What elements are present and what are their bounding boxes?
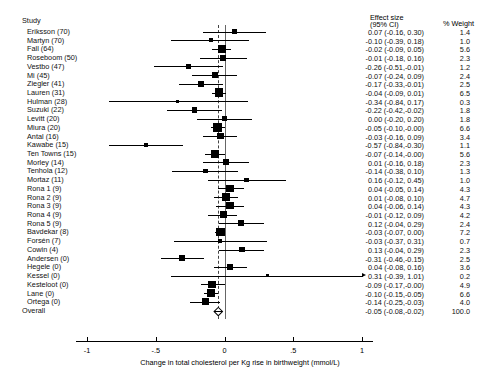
study-label: Fall (64) (27, 45, 54, 52)
study-label: Roseboom (50) (27, 54, 77, 61)
x-axis-tick (87, 337, 88, 341)
study-label: Rona 2 (9) (27, 194, 61, 201)
effect-size-value: -0.14 (-0.38, 0.10) (338, 167, 424, 176)
x-axis-tick-label: -1 (67, 346, 107, 355)
x-axis-tick-label: 1 (342, 346, 382, 355)
weight-value: 1.8 (440, 106, 470, 115)
study-label: Bavdekar (8) (27, 228, 69, 235)
effect-size-value: 0.04 (-0.06, 0.14) (338, 202, 424, 211)
study-label: Rona 4 (9) (27, 211, 61, 218)
weight-value: 2.5 (440, 80, 470, 89)
weight-value: 4.2 (440, 211, 470, 220)
point-estimate-marker (227, 264, 234, 271)
point-estimate-marker (213, 123, 221, 131)
effect-size-value: 0.04 (-0.05, 0.14) (338, 185, 424, 194)
effect-size-value: -0.17 (-0.33,-0.01) (338, 80, 424, 89)
study-label: Mi (45) (27, 72, 50, 79)
point-estimate-marker (203, 169, 208, 174)
effect-size-value: -0.04 (-0.09, 0.01) (338, 89, 424, 98)
point-estimate-marker (226, 185, 233, 192)
study-label: Suzuki (22) (27, 106, 64, 113)
weight-value: 2.4 (440, 220, 470, 229)
point-estimate-marker (238, 220, 244, 226)
effect-size-value: 0.31 (-0.39, 1.01) (338, 272, 424, 281)
study-label: Rona 5 (9) (27, 220, 61, 227)
weight-value: 2.3 (440, 246, 470, 255)
study-label: Ten Towns (15) (27, 150, 76, 157)
x-axis-tick (225, 337, 226, 341)
point-estimate-marker (217, 133, 224, 140)
weight-value: 2.3 (440, 159, 470, 168)
study-label: Kawabe (15) (27, 141, 68, 148)
study-label: Martyn (70) (27, 37, 64, 44)
overall-label: Overall (22, 307, 45, 314)
x-axis-title: Change in total cholesterol per Kg rise … (0, 358, 480, 367)
point-estimate-marker (266, 274, 269, 277)
weight-value: 6.5 (440, 89, 470, 98)
x-axis-tick (156, 337, 157, 341)
effect-size-value: -0.03 (-0.07, 0.00) (338, 228, 424, 237)
overall-diamond-marker (214, 307, 223, 316)
study-label: Miura (20) (27, 124, 60, 131)
point-estimate-marker (212, 72, 218, 78)
study-label: Morley (14) (27, 159, 64, 166)
study-label: Rona 1 (9) (27, 185, 61, 192)
x-axis-tick-label: -.5 (136, 346, 176, 355)
point-estimate-marker (176, 100, 179, 103)
effect-size-value: 0.16 (-0.12, 0.45) (338, 176, 424, 185)
effect-size-value: 0.01 (-0.08, 0.10) (338, 194, 424, 203)
overall-ci-line (214, 311, 222, 312)
effect-size-value: -0.05 (-0.10,-0.00) (338, 124, 424, 133)
study-label: Forsén (7) (27, 237, 61, 244)
x-axis-tick (293, 337, 294, 341)
effect-size-value: 0.13 (-0.04, 0.29) (338, 246, 424, 255)
weight-value: 4.3 (440, 185, 470, 194)
x-axis-tick-label: .5 (273, 346, 313, 355)
study-label: Kesteloot (0) (27, 281, 68, 288)
point-estimate-marker (207, 289, 215, 297)
overall-weight: 100.0 (440, 307, 470, 316)
study-label: Vestbo (47) (27, 63, 64, 70)
weight-value: 1.2 (440, 63, 470, 72)
study-label: Hulman (28) (27, 98, 67, 105)
overall-effect-size: -0.05 (-0.08,-0.02) (338, 307, 424, 316)
weight-value: 5.6 (440, 45, 470, 54)
x-axis-line (76, 341, 373, 342)
study-label: Andersen (0) (27, 255, 69, 262)
study-label: Ortega (0) (27, 298, 60, 305)
weight-value: 4.7 (440, 194, 470, 203)
study-label: Antal (16) (27, 133, 59, 140)
effect-size-value: -0.10 (-0.15,-0.05) (338, 290, 424, 299)
point-estimate-marker (192, 107, 197, 112)
weight-value: 1.4 (440, 28, 470, 37)
weight-value: 6.6 (440, 290, 470, 299)
effect-size-value: 0.01 (-0.16, 0.18) (338, 159, 424, 168)
point-estimate-marker (222, 116, 227, 121)
point-estimate-marker (209, 38, 213, 42)
effect-size-value: -0.01 (-0.18, 0.16) (338, 54, 424, 63)
weight-value: 4.3 (440, 202, 470, 211)
point-estimate-marker (220, 55, 226, 61)
effect-size-value: -0.07 (-0.14,-0.00) (338, 150, 424, 159)
weight-value: 0.2 (440, 272, 470, 281)
study-label: Lauren (31) (27, 89, 65, 96)
study-label: Cowin (4) (27, 246, 58, 253)
study-label: Eriksson (70) (27, 28, 70, 35)
weight-value: 3.6 (440, 263, 470, 272)
weight-value: 2.4 (440, 72, 470, 81)
weight-value: 4.9 (440, 281, 470, 290)
point-estimate-marker (216, 228, 225, 237)
point-estimate-marker (239, 247, 245, 253)
effect-size-value: 0.07 (-0.16, 0.30) (338, 28, 424, 37)
weight-value: 2.3 (440, 54, 470, 63)
weight-value: 4.0 (440, 298, 470, 307)
effect-size-value: -0.26 (-0.51,-0.01) (338, 63, 424, 72)
point-estimate-marker (215, 88, 223, 96)
point-estimate-marker (186, 64, 191, 69)
point-estimate-marker (179, 255, 185, 261)
effect-size-value: -0.10 (-0.39, 0.18) (338, 37, 424, 46)
x-axis-tick-label: 0 (205, 346, 245, 355)
point-estimate-marker (220, 211, 227, 218)
weight-value: 0.3 (440, 98, 470, 107)
effect-size-value: -0.22 (-0.42,-0.02) (338, 106, 424, 115)
